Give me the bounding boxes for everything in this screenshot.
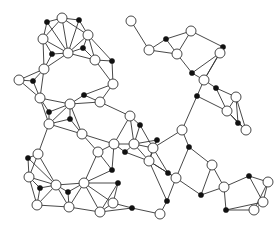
- white-vertex: [44, 119, 54, 129]
- black-vertex: [30, 78, 35, 83]
- white-vertex: [108, 198, 118, 208]
- white-vertex: [222, 106, 232, 116]
- black-vertex: [81, 92, 86, 97]
- black-vertex: [164, 198, 169, 203]
- white-vertex: [51, 180, 61, 190]
- white-vertex: [95, 97, 105, 107]
- black-vertex: [235, 120, 240, 125]
- white-vertex: [14, 75, 24, 85]
- white-vertex: [93, 147, 103, 157]
- black-vertex: [25, 155, 30, 160]
- black-vertex: [80, 45, 85, 50]
- white-vertex: [79, 178, 89, 188]
- black-vertex: [163, 36, 168, 41]
- white-vertex: [155, 209, 165, 219]
- white-vertex: [171, 173, 181, 183]
- white-vertex: [148, 143, 158, 153]
- black-vertex: [137, 122, 142, 127]
- white-vertex: [186, 26, 196, 36]
- black-vertex: [165, 170, 170, 175]
- white-vertex: [83, 30, 93, 40]
- black-vertex: [213, 85, 218, 90]
- black-vertex: [65, 189, 70, 194]
- black-vertex: [115, 180, 120, 185]
- white-vertex: [64, 202, 74, 212]
- white-vertex: [90, 55, 100, 65]
- white-vertex: [108, 79, 118, 89]
- white-vertices: [14, 13, 273, 219]
- black-vertex: [246, 173, 251, 178]
- white-vertex: [63, 48, 73, 58]
- black-vertex: [198, 192, 203, 197]
- white-vertex: [24, 172, 34, 182]
- white-vertex: [125, 111, 135, 121]
- white-vertex: [177, 125, 187, 135]
- white-vertex: [129, 139, 139, 149]
- graph-edge: [47, 22, 68, 53]
- graph-svg: [0, 0, 279, 233]
- white-vertex: [39, 64, 49, 74]
- white-vertex: [35, 93, 45, 103]
- white-vertex: [231, 92, 241, 102]
- black-vertex: [194, 93, 199, 98]
- graph-edge: [182, 96, 197, 130]
- white-vertex: [258, 197, 268, 207]
- white-vertex: [199, 75, 209, 85]
- white-vertex: [65, 99, 75, 109]
- white-vertex: [249, 205, 259, 215]
- black-vertex: [109, 167, 114, 172]
- white-vertex: [32, 200, 42, 210]
- white-vertex: [77, 129, 87, 139]
- white-vertex: [95, 207, 105, 217]
- white-vertex: [38, 34, 48, 44]
- black-vertex: [67, 116, 72, 121]
- black-vertex: [109, 58, 114, 63]
- black-vertex: [49, 51, 54, 56]
- white-vertex: [144, 156, 154, 166]
- black-vertex: [154, 137, 159, 142]
- white-vertex: [215, 48, 225, 58]
- white-vertex: [126, 16, 136, 26]
- black-vertex: [129, 205, 134, 210]
- black-vertex: [46, 109, 51, 114]
- black-vertex: [37, 185, 42, 190]
- white-vertex: [263, 177, 273, 187]
- black-vertex: [189, 70, 194, 75]
- black-vertex: [44, 19, 49, 24]
- white-vertex: [172, 49, 182, 59]
- white-vertex: [33, 149, 43, 159]
- white-vertex: [219, 182, 229, 192]
- graph-diagram: [0, 0, 279, 233]
- white-vertex: [144, 45, 154, 55]
- black-vertex: [76, 17, 81, 22]
- white-vertex: [207, 160, 217, 170]
- black-vertex: [223, 207, 228, 212]
- white-vertex: [241, 125, 251, 135]
- white-vertex: [109, 139, 119, 149]
- black-vertex: [186, 144, 191, 149]
- white-vertex: [57, 13, 67, 23]
- black-vertex: [122, 149, 127, 154]
